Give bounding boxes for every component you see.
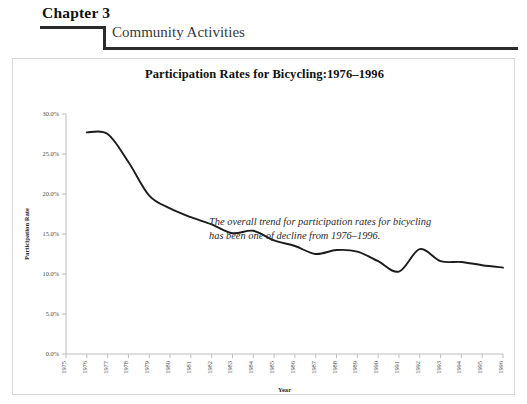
chart-annotation: The overall trend for participation rate… bbox=[209, 215, 444, 243]
header-rule-lower bbox=[103, 47, 518, 50]
x-tick-label: 1980 bbox=[164, 361, 171, 374]
section-title: Community Activities bbox=[112, 24, 245, 41]
y-tick-label: 0.0% bbox=[46, 350, 60, 357]
x-tick-label: 1976 bbox=[81, 361, 88, 374]
chapter-title: Chapter 3 bbox=[42, 4, 110, 22]
x-tick-label: 1983 bbox=[226, 361, 233, 374]
x-tick-group: 1975197619771978197919801981198219831984… bbox=[60, 354, 504, 374]
x-axis: 1975197619771978197919801981198219831984… bbox=[60, 354, 504, 374]
x-tick-label: 1995 bbox=[476, 361, 483, 374]
x-tick-label: 1975 bbox=[60, 361, 67, 374]
y-axis: 0.0%5.0%10.0%15.0%20.0%25.0%30.0% bbox=[42, 110, 66, 357]
x-tick-label: 1982 bbox=[206, 361, 213, 374]
figure-panel: Participation Rates for Bicycling:1976–1… bbox=[12, 58, 515, 395]
x-tick-label: 1996 bbox=[497, 361, 504, 374]
x-tick-label: 1993 bbox=[435, 361, 442, 374]
x-tick-label: 1988 bbox=[331, 361, 338, 374]
x-tick-label: 1984 bbox=[247, 360, 254, 374]
y-tick-label: 30.0% bbox=[42, 110, 59, 117]
y-tick-label: 15.0% bbox=[42, 230, 59, 237]
y-tick-label: 10.0% bbox=[42, 270, 59, 277]
x-tick-label: 1987 bbox=[310, 360, 317, 374]
x-tick-label: 1991 bbox=[393, 361, 400, 374]
x-tick-label: 1981 bbox=[185, 361, 192, 374]
x-tick-label: 1977 bbox=[102, 360, 109, 374]
x-tick-label: 1986 bbox=[289, 361, 296, 374]
x-tick-label: 1978 bbox=[122, 361, 129, 374]
y-tick-label: 5.0% bbox=[46, 310, 60, 317]
x-tick-label: 1992 bbox=[414, 361, 421, 374]
x-tick-label: 1985 bbox=[268, 361, 275, 374]
header-rule-upper bbox=[40, 26, 106, 29]
chapter-header: Chapter 3 Community Activities bbox=[0, 0, 527, 55]
y-tick-group: 0.0%5.0%10.0%15.0%20.0%25.0%30.0% bbox=[42, 110, 66, 357]
x-tick-label: 1979 bbox=[143, 361, 150, 374]
data-series-line bbox=[87, 131, 503, 272]
x-axis-title: Year bbox=[278, 386, 291, 393]
y-tick-label: 20.0% bbox=[42, 190, 59, 197]
x-tick-label: 1990 bbox=[372, 361, 379, 374]
y-axis-title: Participation Rate bbox=[23, 208, 30, 260]
x-tick-label: 1989 bbox=[351, 361, 358, 374]
x-tick-label: 1994 bbox=[455, 360, 462, 374]
y-tick-label: 25.0% bbox=[42, 150, 59, 157]
